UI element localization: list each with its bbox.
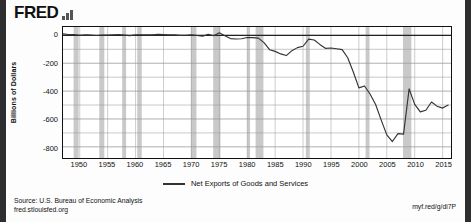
y-tick-label: -600 [12,115,58,124]
x-tick-label: 1960 [127,160,144,169]
recession-band [122,27,126,158]
short-url[interactable]: myf.red/g/di7P [412,203,456,210]
recession-band [256,27,264,158]
recession-band [74,27,79,158]
window-edge-left [0,0,6,222]
x-tick-label: 1995 [323,160,340,169]
y-axis-ticks: 0-200-400-600-800 [6,26,58,159]
x-tick-label: 1970 [183,160,200,169]
source-attribution: Source: U.S. Bureau of Economic Analysis… [14,196,142,214]
x-tick-label: 2000 [351,160,368,169]
x-tick-label: 1975 [211,160,228,169]
chart-plot-area [62,26,452,159]
recession-band [137,27,141,158]
window-edge-right [465,0,471,222]
net-exports-line-chart [63,27,451,158]
x-tick-label: 1955 [99,160,116,169]
x-tick-label: 2015 [435,160,452,169]
x-axis-ticks: 1950195519601965197019751980198519901995… [62,160,452,172]
bar-chart-icon [62,9,75,20]
x-tick-label: 1965 [155,160,172,169]
y-tick-label: -200 [12,58,58,67]
x-tick-label: 2010 [407,160,424,169]
recession-band [99,27,104,158]
recession-band [247,27,250,158]
legend-line-swatch [163,183,185,185]
y-tick-label: -400 [12,87,58,96]
legend-series-label: Net Exports of Goods and Services [191,179,308,188]
x-tick-label: 2005 [379,160,396,169]
chart-frame [62,26,452,159]
x-tick-label: 1985 [267,160,284,169]
source-line: Source: U.S. Bureau of Economic Analysis [14,196,142,205]
recession-band [306,27,310,158]
x-tick-label: 1950 [70,160,87,169]
fred-site-link[interactable]: fred.stlouisfed.org [14,205,142,214]
x-tick-label: 1990 [295,160,312,169]
chart-legend: Net Exports of Goods and Services [6,179,465,188]
fred-header: FRED [14,4,75,21]
fred-logo-text: FRED [14,4,58,21]
y-tick-label: -800 [12,143,58,152]
y-tick-label: 0 [12,30,58,39]
fred-chart-page: FRED Billions of Dollars 0-200-400-600-8… [6,0,465,222]
recession-band [191,27,197,158]
x-tick-label: 1980 [239,160,256,169]
